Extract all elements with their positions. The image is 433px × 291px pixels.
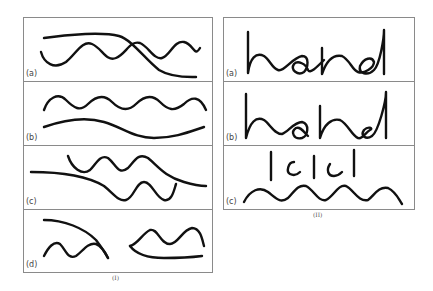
row-label: (b) [226, 133, 237, 142]
row-label: (a) [226, 69, 237, 78]
figure-II-caption: (II) [313, 211, 322, 218]
handwriting-hand-a [224, 18, 414, 82]
row-label: (b) [26, 133, 37, 142]
curve-drawing-d [24, 210, 212, 272]
handwriting-hand-b [224, 82, 414, 146]
curve-drawing-c [24, 146, 212, 210]
wavy-line [224, 146, 414, 209]
figure-I-panel: (a) (b) (c) (d) [23, 17, 213, 273]
row-label: (c) [226, 197, 237, 206]
figure-II-row-a: (a) [224, 18, 414, 82]
figure-I-row-c: (c) [24, 146, 212, 210]
figure-I-row-a: (a) [24, 18, 212, 82]
figure-I-row-b: (b) [24, 82, 212, 146]
curve-drawing-b [24, 82, 212, 146]
figure-II-row-b: (b) [224, 82, 414, 146]
curve-drawing-a [24, 18, 212, 82]
figure-II-panel: (a) (b) (c) [223, 17, 415, 210]
row-label: (c) [26, 197, 37, 206]
figure-I-row-d: (d) [24, 210, 212, 272]
figure-II-row-c: (c) [224, 146, 414, 209]
row-label: (d) [26, 260, 37, 269]
figure-I-caption: (I) [112, 274, 119, 281]
row-label: (a) [26, 69, 37, 78]
